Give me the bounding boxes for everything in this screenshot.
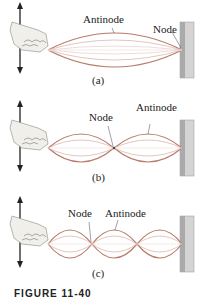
annotation-antinode: Antinode	[83, 14, 124, 25]
annotation-node: Node	[89, 112, 113, 123]
annotation-node: Node	[153, 24, 177, 35]
annotation-antinode: Antinode	[105, 208, 146, 219]
annotation-antinode: Antinode	[136, 102, 177, 113]
annotation-node: Node	[68, 208, 92, 219]
panel-c: Node Antinode (c)	[0, 194, 204, 286]
panel-label-b: (b)	[92, 172, 105, 183]
panel-b: Node Antinode (b)	[0, 96, 204, 194]
figure-caption: FIGURE 11-40	[14, 288, 92, 299]
panel-label-a: (a)	[92, 75, 104, 86]
panel-a: Antinode Node (a)	[0, 0, 204, 96]
panel-label-c: (c)	[92, 268, 104, 279]
